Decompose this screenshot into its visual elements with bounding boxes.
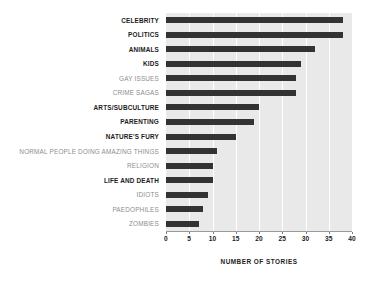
tick-label: 10 — [209, 235, 217, 242]
bar-row[interactable] — [166, 202, 352, 217]
tick-label: 5 — [187, 235, 191, 242]
category-label: NORMAL PEOPLE DOING AMAZING THINGS — [19, 148, 159, 155]
bar-row[interactable] — [166, 158, 352, 173]
tick-label: 25 — [278, 235, 286, 242]
bar[interactable] — [166, 163, 213, 169]
bar-row[interactable] — [166, 129, 352, 144]
category-label-row: CRIME SAGAS — [0, 86, 163, 101]
tick-label: 40 — [348, 235, 356, 242]
category-label: KIDS — [143, 60, 159, 67]
bar-row[interactable] — [166, 115, 352, 130]
category-label-row: ARTS/SUBCULTURE — [0, 100, 163, 115]
category-label: CELEBRITY — [121, 17, 159, 24]
bar[interactable] — [166, 17, 343, 23]
category-label: NATURE'S FURY — [106, 133, 159, 140]
category-label-row: ANIMALS — [0, 42, 163, 57]
bar-row[interactable] — [166, 86, 352, 101]
category-label: RELIGION — [127, 162, 159, 169]
category-label: POLITICS — [128, 31, 159, 38]
bar-row[interactable] — [166, 216, 352, 231]
category-label: CRIME SAGAS — [113, 89, 159, 96]
bar-row[interactable] — [166, 57, 352, 72]
x-axis-ticks: 0510152025303540 — [166, 232, 352, 244]
category-label-row: POLITICS — [0, 28, 163, 43]
tick-mark — [166, 232, 167, 234]
category-label: ANIMALS — [129, 46, 159, 53]
category-label-row: CELEBRITY — [0, 13, 163, 28]
tick-mark — [236, 232, 237, 234]
category-label: GAY ISSUES — [119, 75, 159, 82]
bar[interactable] — [166, 148, 217, 154]
category-label-row: NATURE'S FURY — [0, 129, 163, 144]
category-axis-labels: CELEBRITYPOLITICSANIMALSKIDSGAY ISSUESCR… — [0, 13, 163, 231]
category-label: LIFE AND DEATH — [104, 177, 159, 184]
bar[interactable] — [166, 46, 315, 52]
bar[interactable] — [166, 61, 301, 67]
bar-row[interactable] — [166, 42, 352, 57]
bar[interactable] — [166, 75, 296, 81]
tick-mark — [352, 232, 353, 234]
tick-label: 30 — [302, 235, 310, 242]
bar[interactable] — [166, 206, 203, 212]
category-label: IDIOTS — [137, 191, 159, 198]
tick-mark — [259, 232, 260, 234]
x-axis-title: NUMBER OF STORIES — [166, 258, 352, 265]
tick-mark — [189, 232, 190, 234]
category-label-row: ZOMBIES — [0, 216, 163, 231]
tick-label: 35 — [325, 235, 333, 242]
tick-mark — [213, 232, 214, 234]
bar[interactable] — [166, 192, 208, 198]
category-label-row: GAY ISSUES — [0, 71, 163, 86]
bar[interactable] — [166, 104, 259, 110]
bar-row[interactable] — [166, 13, 352, 28]
category-label-row: LIFE AND DEATH — [0, 173, 163, 188]
tick-mark — [282, 232, 283, 234]
tick-label: 20 — [255, 235, 263, 242]
bar[interactable] — [166, 177, 213, 183]
bar-row[interactable] — [166, 144, 352, 159]
tick-mark — [306, 232, 307, 234]
tick-mark — [329, 232, 330, 234]
category-label: ARTS/SUBCULTURE — [94, 104, 159, 111]
category-label: PARENTING — [120, 118, 159, 125]
category-label-row: PARENTING — [0, 115, 163, 130]
category-label-row: NORMAL PEOPLE DOING AMAZING THINGS — [0, 144, 163, 159]
category-label-row: PAEDOPHILES — [0, 202, 163, 217]
tick-label: 15 — [232, 235, 240, 242]
bar-row[interactable] — [166, 187, 352, 202]
bar-row[interactable] — [166, 173, 352, 188]
bar[interactable] — [166, 221, 199, 227]
bar[interactable] — [166, 32, 343, 38]
bar-row[interactable] — [166, 71, 352, 86]
category-label: PAEDOPHILES — [112, 206, 159, 213]
bar-row[interactable] — [166, 100, 352, 115]
category-label-row: KIDS — [0, 57, 163, 72]
tick-label: 0 — [164, 235, 168, 242]
plot-area — [166, 13, 352, 231]
category-label: ZOMBIES — [129, 220, 159, 227]
bar[interactable] — [166, 119, 254, 125]
bars-container — [166, 13, 352, 231]
bar[interactable] — [166, 134, 236, 140]
category-label-row: IDIOTS — [0, 187, 163, 202]
category-label-row: RELIGION — [0, 158, 163, 173]
bar-chart: CELEBRITYPOLITICSANIMALSKIDSGAY ISSUESCR… — [0, 0, 377, 285]
bar[interactable] — [166, 90, 296, 96]
bar-row[interactable] — [166, 28, 352, 43]
